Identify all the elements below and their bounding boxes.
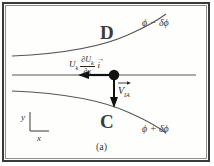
normal-velocity-arrow <box>110 76 118 108</box>
region-label-d: D <box>100 23 114 42</box>
convection-term-label: Uk ∂Uk ∂x →i <box>69 56 100 76</box>
normal-velocity-label: VIA <box>118 86 130 98</box>
partial-derivative-fraction: ∂Uk ∂x <box>80 56 94 76</box>
normal-velocity-subscript: IA <box>124 92 130 98</box>
fraction-denominator: ∂x <box>83 68 93 76</box>
figure-caption: (a) <box>96 142 107 152</box>
fraction-numerator: ∂Uk <box>80 56 94 66</box>
unit-vector-i: →i <box>98 61 101 70</box>
particle-node-dot <box>109 70 119 80</box>
figure-container: D C ϕ − δϕ ϕ + δϕ Uk ∂Uk ∂x →i VIA y x (… <box>0 0 214 166</box>
unit-vector-hat: → <box>98 56 105 63</box>
coordinate-axis-key <box>30 112 49 131</box>
axis-label-x: x <box>37 134 41 143</box>
region-label-c: C <box>100 112 114 131</box>
convection-leading-subscript: k <box>76 65 79 71</box>
isoline-label-upper: ϕ − δϕ <box>142 18 169 28</box>
axis-label-y: y <box>21 113 25 122</box>
vector-overarrow-icon <box>118 80 131 85</box>
isoline-label-lower: ϕ + δϕ <box>142 124 169 134</box>
convection-leading-symbol: Uk <box>69 60 78 71</box>
